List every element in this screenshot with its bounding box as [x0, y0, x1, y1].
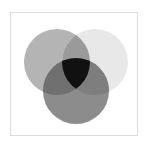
venn-diagram [0, 0, 153, 145]
